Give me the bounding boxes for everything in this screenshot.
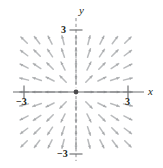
x-axis-tick-label-positive: 3 <box>125 97 130 107</box>
direction-field-figure: x y 3 −3 3 −3 <box>0 0 163 168</box>
y-axis-label: y <box>79 5 84 16</box>
slope-field-arrowhead <box>75 146 78 149</box>
direction-field-plot <box>0 0 163 168</box>
x-axis-label: x <box>148 86 153 97</box>
y-axis-tick-label-positive: 3 <box>61 25 66 35</box>
axes-layer <box>13 18 144 161</box>
y-axis-tick-label-negative: −3 <box>57 149 68 159</box>
slope-field-arrowhead <box>75 62 78 65</box>
origin-marker <box>74 90 79 95</box>
x-axis-tick-label-negative: −3 <box>16 97 27 107</box>
